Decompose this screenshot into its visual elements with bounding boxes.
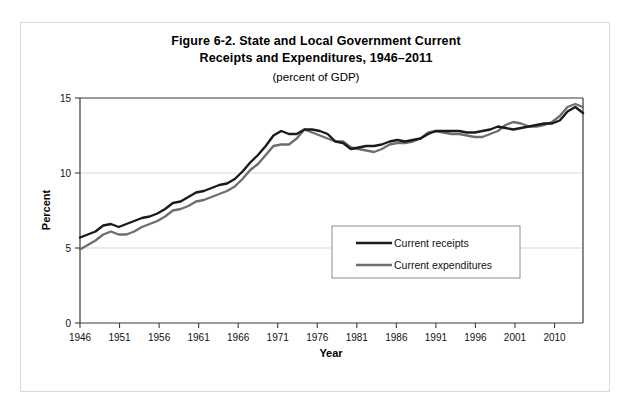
axes-group [80, 98, 583, 323]
y-ticks-group: 051015 [60, 93, 80, 329]
x-tick-label-1956: 1956 [148, 332, 171, 343]
x-tick-label-1991: 1991 [425, 332, 448, 343]
y-axis-title: Percent [40, 189, 52, 230]
x-tick-label-2010: 2010 [543, 332, 566, 343]
legend-label-current-receipts: Current receipts [394, 237, 469, 249]
x-tick-label-1951: 1951 [108, 332, 131, 343]
legend-label-current-expenditures: Current expenditures [394, 259, 492, 271]
y-tick-label-0: 0 [65, 318, 71, 329]
plot-area: 051015 194619511956196119661971197619811… [0, 0, 628, 412]
x-tick-label-1971: 1971 [267, 332, 290, 343]
x-tick-label-1986: 1986 [385, 332, 408, 343]
chart-legend: Current receipts Current expenditures [332, 226, 520, 278]
x-tick-label-1996: 1996 [464, 332, 487, 343]
x-ticks-group: 1946195119561961196619711976198119861991… [69, 323, 566, 343]
x-tick-label-2001: 2001 [504, 332, 527, 343]
x-tick-label-1981: 1981 [346, 332, 369, 343]
x-tick-label-1966: 1966 [227, 332, 250, 343]
series-line-current-receipts [80, 107, 583, 238]
y-tick-label-10: 10 [60, 168, 72, 179]
y-tick-label-5: 5 [65, 243, 71, 254]
line-chart: 051015 194619511956196119661971197619811… [0, 0, 628, 412]
x-tick-label-1976: 1976 [306, 332, 329, 343]
x-tick-label-1946: 1946 [69, 332, 92, 343]
x-tick-label-1961: 1961 [188, 332, 211, 343]
y-tick-label-15: 15 [60, 93, 72, 104]
x-axis-title: Year [319, 347, 343, 359]
